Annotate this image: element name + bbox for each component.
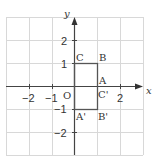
y-axis-label: y xyxy=(63,8,70,19)
point-label-a: A xyxy=(98,75,107,86)
y-axis-arrow-icon xyxy=(72,17,78,25)
point-label-a-prime: A' xyxy=(75,111,86,122)
y-tick-label: 2 xyxy=(61,35,67,47)
y-tick-label: −2 xyxy=(54,127,67,139)
y-tick-label: 1 xyxy=(61,58,67,70)
x-tick-label: 2 xyxy=(117,92,123,104)
origin-label: O xyxy=(63,90,71,101)
point-label-c-prime: C' xyxy=(98,89,108,100)
x-tick-label: −2 xyxy=(22,92,35,104)
point-label-b: B xyxy=(99,52,106,63)
point-label-c: C xyxy=(76,52,84,63)
axes xyxy=(6,22,138,155)
x-axis-label: x xyxy=(146,85,152,96)
point-label-b-prime: B' xyxy=(98,111,108,122)
y-tick-label: −1 xyxy=(54,103,67,115)
coordinate-diagram: x y O −2 −1 2 2 1 −1 −2 C B A C' A' B' xyxy=(0,0,158,166)
x-axis-arrow-icon xyxy=(135,84,143,90)
